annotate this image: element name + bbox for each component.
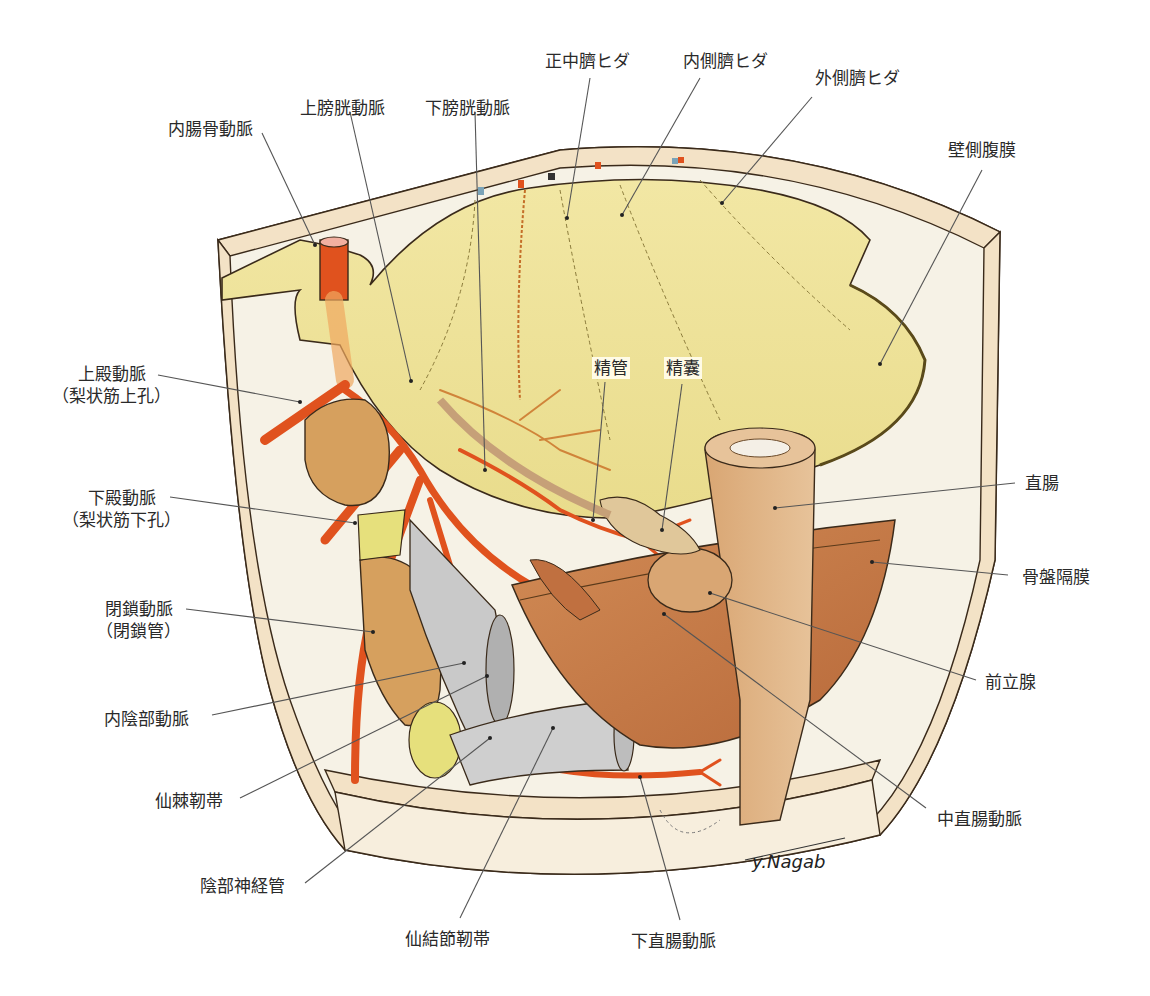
label-text: 直腸 xyxy=(1025,472,1059,494)
svg-text:y.Nagab: y.Nagab xyxy=(751,851,825,872)
leader-dot xyxy=(409,379,413,383)
leader-dot xyxy=(708,591,712,595)
label-superior-gluteal-artery: 上殿動脈（梨状筋上孔） xyxy=(52,363,171,407)
leader-dot xyxy=(551,726,555,730)
label-levator-ani: 骨盤隔膜 xyxy=(1022,566,1090,588)
leader-dot xyxy=(371,630,375,634)
label-pudendal-canal: 陰部神経管 xyxy=(200,875,285,897)
leader-dot xyxy=(720,201,724,205)
leader-dot xyxy=(660,528,664,532)
label-subtext: （閉鎖管） xyxy=(96,620,181,642)
label-text: 内側臍ヒダ xyxy=(683,50,768,72)
label-prostate: 前立腺 xyxy=(985,671,1036,693)
label-median-umbilical-fold: 正中臍ヒダ xyxy=(545,50,630,72)
leader-dot xyxy=(773,506,777,510)
label-text: 内腸骨動脈 xyxy=(168,118,253,140)
label-text: 壁側腹膜 xyxy=(948,139,1016,161)
label-obturator-artery: 閉鎖動脈（閉鎖管） xyxy=(96,598,181,642)
label-rectum: 直腸 xyxy=(1025,472,1059,494)
leader-dot xyxy=(462,661,466,665)
label-text: 下殿動脈 xyxy=(62,487,181,509)
leader-dot xyxy=(638,775,642,779)
label-text: 正中臍ヒダ xyxy=(545,50,630,72)
label-inferior-gluteal-artery: 下殿動脈（梨状筋下孔） xyxy=(62,487,181,531)
leader-dot xyxy=(565,216,569,220)
label-seminal-vesicle: 精囊 xyxy=(664,357,702,379)
label-text: 下直腸動脈 xyxy=(631,930,716,952)
label-internal-iliac-artery: 内腸骨動脈 xyxy=(168,118,253,140)
label-text: 中直腸動脈 xyxy=(937,808,1022,830)
leader-dot xyxy=(620,213,624,217)
label-text: 前立腺 xyxy=(985,671,1036,693)
label-subtext: （梨状筋上孔） xyxy=(52,385,171,407)
leader-dot xyxy=(878,362,882,366)
label-text: 仙棘靭帯 xyxy=(155,790,223,812)
leader-dot xyxy=(485,674,489,678)
label-inferior-rectal-artery: 下直腸動脈 xyxy=(631,930,716,952)
label-lateral-umbilical-fold: 外側臍ヒダ xyxy=(815,67,900,89)
label-superior-vesical-artery: 上膀胱動脈 xyxy=(300,97,385,119)
anatomy-figure: y.Nagab 内腸骨動脈上膀胱動脈下膀胱動脈正中臍ヒダ内側臍ヒダ外側臍ヒダ壁側… xyxy=(0,0,1150,996)
label-text: 閉鎖動脈 xyxy=(96,598,181,620)
label-inferior-vesical-artery: 下膀胱動脈 xyxy=(425,97,510,119)
label-text: 上膀胱動脈 xyxy=(300,97,385,119)
label-text: 仙結節靭帯 xyxy=(405,928,490,950)
leader-dot xyxy=(483,468,487,472)
label-text: 下膀胱動脈 xyxy=(425,97,510,119)
label-internal-pudendal-artery: 内陰部動脈 xyxy=(104,708,189,730)
label-text: 精管 xyxy=(594,357,628,379)
label-text: 陰部神経管 xyxy=(200,875,285,897)
leader-dot xyxy=(298,400,302,404)
label-text: 外側臍ヒダ xyxy=(815,67,900,89)
leader-dot xyxy=(870,560,874,564)
label-subtext: （梨状筋下孔） xyxy=(62,509,181,531)
label-text: 精囊 xyxy=(666,357,700,379)
label-middle-rectal-artery: 中直腸動脈 xyxy=(937,808,1022,830)
label-sacrospinous-ligament: 仙棘靭帯 xyxy=(155,790,223,812)
leader-dot xyxy=(353,521,357,525)
label-text: 骨盤隔膜 xyxy=(1022,566,1090,588)
leader-dot xyxy=(662,612,666,616)
label-text: 上殿動脈 xyxy=(52,363,171,385)
label-vas-deferens: 精管 xyxy=(592,357,630,379)
leader-dot xyxy=(488,736,492,740)
label-parietal-peritoneum: 壁側腹膜 xyxy=(948,139,1016,161)
label-medial-umbilical-fold: 内側臍ヒダ xyxy=(683,50,768,72)
leader-dot xyxy=(591,518,595,522)
leader-dot xyxy=(313,243,317,247)
label-text: 内陰部動脈 xyxy=(104,708,189,730)
label-sacrotuberous-ligament: 仙結節靭帯 xyxy=(405,928,490,950)
